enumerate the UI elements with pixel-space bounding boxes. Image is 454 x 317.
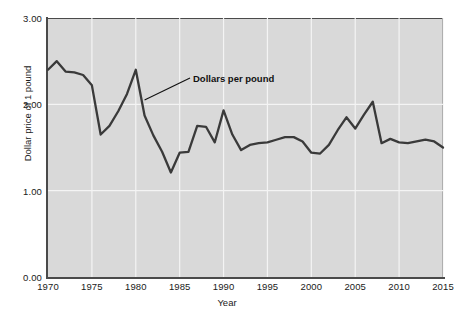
x-tick-label: 1980: [125, 281, 147, 292]
x-tick-label: 1995: [257, 281, 279, 292]
annotation-leader-line: [145, 78, 190, 100]
x-tick-label: 2010: [388, 281, 410, 292]
series-annotation-label: Dollars per pound: [193, 73, 274, 84]
x-axis-label: Year: [0, 297, 454, 308]
x-tick-label: 1970: [37, 281, 59, 292]
x-tick-label: 1975: [81, 281, 103, 292]
y-axis-label: Dollar price of 1 pound: [22, 39, 33, 189]
y-tick-label: 3.00: [23, 13, 42, 24]
x-tick-label: 1990: [213, 281, 235, 292]
x-tick-label: 2015: [432, 281, 454, 292]
x-tick-label: 2000: [301, 281, 323, 292]
x-tick-label: 2005: [344, 281, 366, 292]
chart-figure: 0.001.002.003.00 19701975198019851990199…: [0, 0, 454, 317]
x-tick-label: 1985: [169, 281, 191, 292]
chart-canvas: [0, 0, 454, 317]
vertical-gridlines: [92, 18, 443, 277]
